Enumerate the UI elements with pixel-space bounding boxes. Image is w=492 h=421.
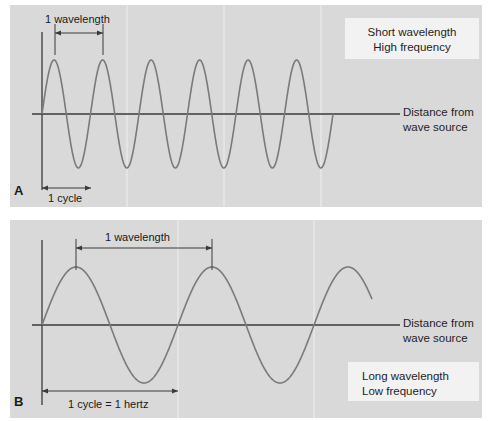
panel-b-callout-line2: Low frequency [362, 384, 469, 399]
panel-a-axis-label: Distance from wave source [403, 105, 474, 135]
panel-a-letter: A [14, 183, 24, 198]
panel-b-dimension-arrows [42, 239, 212, 394]
panel-b-axes [32, 240, 400, 405]
panel-b-wavelength-label: 1 wavelength [105, 231, 170, 243]
panel-b-axis-label-line2: wave source [403, 331, 474, 346]
panel-a-cycle-label: 1 cycle [48, 192, 82, 204]
panel-b-cycle-label: 1 cycle = 1 hertz [68, 398, 148, 410]
panel-a-dimension-arrows [42, 24, 103, 191]
panel-a-wavelength-label: 1 wavelength [45, 13, 110, 25]
panel-a-axis-label-line2: wave source [403, 120, 474, 135]
panel-b-axis-label-line1: Distance from [403, 316, 474, 331]
panel-b-callout-line1: Long wavelength [362, 369, 469, 384]
panel-a-axis-label-line1: Distance from [403, 105, 474, 120]
panel-a-callout-box: Short wavelength High frequency [345, 18, 479, 59]
panel-a-gridlines [127, 5, 321, 207]
panel-b-callout-box: Long wavelength Low frequency [348, 362, 479, 401]
panel-a-callout-line1: Short wavelength [355, 25, 469, 40]
panel-b-gridlines [178, 220, 314, 418]
panel-b-axis-label: Distance from wave source [403, 316, 474, 346]
panel-b-letter: B [14, 394, 24, 409]
panel-a-callout-line2: High frequency [355, 40, 469, 55]
